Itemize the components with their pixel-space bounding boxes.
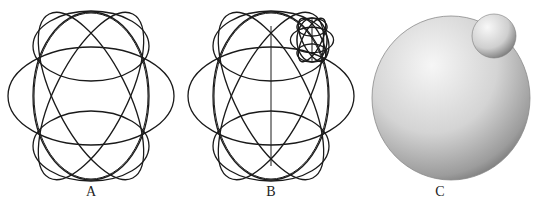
panel-a-label: A: [81, 184, 101, 200]
panel-a-wireframe: [8, 0, 174, 194]
figure-canvas: [0, 0, 538, 208]
panel-b-label: B: [261, 184, 281, 200]
panel-c-label: C: [430, 184, 450, 200]
small-sphere: [472, 14, 516, 58]
panel-c-shaded-spheres: [372, 14, 530, 180]
panel-b-wireframe: [188, 0, 354, 194]
